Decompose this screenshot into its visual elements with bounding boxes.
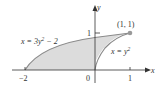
y-tick-label-1: 1 xyxy=(87,29,91,38)
x-axis-label: x xyxy=(150,66,155,75)
origin-label: 0 xyxy=(86,74,90,83)
left-curve-equation: x = 3y2 − 2 xyxy=(20,36,58,46)
x-tick-label-neg2: −2 xyxy=(19,74,28,83)
point-1-1 xyxy=(128,31,133,36)
region-diagram: y x 0 −2 1 1 (1, 1) x = 3y2 − 2 x = y2 xyxy=(0,0,157,89)
point-label: (1, 1) xyxy=(117,20,135,29)
x-tick-label-1: 1 xyxy=(128,74,132,83)
right-curve-equation: x = y2 xyxy=(110,46,131,56)
y-axis-label: y xyxy=(96,3,101,12)
